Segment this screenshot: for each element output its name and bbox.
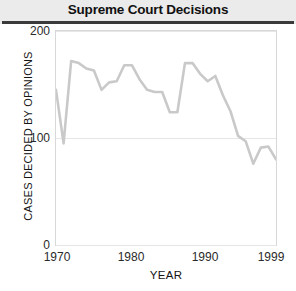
x-tick-1990: 1990 bbox=[180, 250, 230, 264]
plot-area bbox=[55, 30, 277, 246]
gridline-0 bbox=[56, 245, 276, 246]
y-axis-title: CASES DECIDED BY OPINIONS bbox=[22, 26, 34, 246]
x-tick-1999: 1999 bbox=[246, 250, 296, 264]
series-line bbox=[56, 61, 276, 164]
x-axis-title: YEAR bbox=[55, 269, 277, 281]
x-tick-1970: 1970 bbox=[32, 250, 82, 264]
title-band: Supreme Court Decisions bbox=[0, 0, 296, 24]
x-tick-1980: 1980 bbox=[106, 250, 156, 264]
page-title: Supreme Court Decisions bbox=[0, 2, 296, 17]
chart-container: 200 100 0 CASES DECIDED BY OPINIONS 1970… bbox=[0, 24, 296, 291]
series-line-svg bbox=[56, 31, 276, 245]
